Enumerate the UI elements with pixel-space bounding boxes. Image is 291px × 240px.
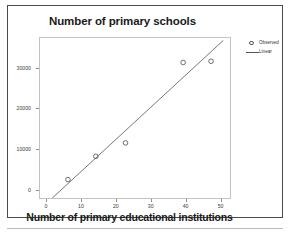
observed-point — [181, 60, 186, 65]
y-tick-label: 30000 — [17, 65, 36, 71]
line-marker-icon — [246, 48, 259, 56]
x-tick-mark — [151, 199, 152, 202]
legend-item-observed: Observed — [246, 39, 291, 47]
plot-canvas — [40, 38, 231, 199]
chart-legend: Observed Linear — [246, 39, 291, 57]
x-tick-label: 40 — [183, 203, 189, 209]
legend-label-linear: Linear — [259, 48, 272, 56]
y-tick-mark — [36, 190, 39, 191]
x-tick-label: 10 — [78, 203, 84, 209]
y-tick-label: 10000 — [17, 146, 36, 152]
x-tick-label: 50 — [218, 203, 224, 209]
x-tick-mark — [116, 199, 117, 202]
y-tick-label: 0 — [28, 187, 36, 193]
x-tick-label: 0 — [45, 203, 48, 209]
x-tick-mark — [221, 199, 222, 202]
observed-points-group — [66, 59, 214, 182]
observed-point — [123, 141, 128, 146]
y-tick-mark — [36, 108, 39, 109]
plot-area — [39, 37, 231, 199]
y-tick-mark — [36, 149, 39, 150]
open-circle-marker-icon — [246, 39, 259, 47]
x-tick-mark — [186, 199, 187, 202]
chart-figure-frame: Number of primary schools 01000020000300… — [7, 5, 283, 218]
x-tick-mark — [46, 199, 47, 202]
y-tick-label: 20000 — [17, 105, 36, 111]
chart-title: Number of primary schools — [8, 15, 237, 27]
y-axis-ticks: 0100002000030000 — [8, 6, 36, 240]
observed-point — [66, 177, 71, 182]
bottom-divider — [7, 228, 283, 229]
x-axis-title: Number of primary educational institutio… — [22, 211, 237, 223]
x-tick-label: 30 — [148, 203, 154, 209]
y-tick-mark — [36, 68, 39, 69]
legend-item-linear: Linear — [246, 48, 291, 56]
legend-label-observed: Observed — [259, 39, 279, 47]
linear-fit-line — [52, 40, 224, 198]
x-tick-label: 20 — [113, 203, 119, 209]
observed-point — [209, 59, 214, 64]
x-tick-mark — [81, 199, 82, 202]
